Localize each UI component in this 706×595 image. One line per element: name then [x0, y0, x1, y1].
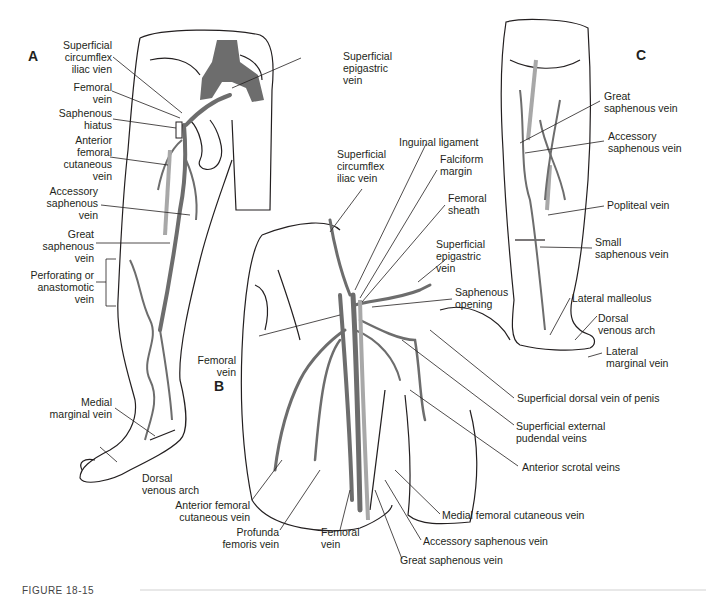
label-b-profunda-femoris-vein: Profunda femoris vein	[222, 526, 279, 550]
label-b-inguinal-ligament: Inguinal ligament	[399, 136, 478, 148]
label-c-popliteal-vein: Popliteal vein	[607, 199, 669, 211]
label-b-superficial-circumflex-iliac-vein: Superficial circumflex iliac vein	[337, 148, 386, 184]
label-a-great-saphenous-vein: Great saphenous vein	[43, 228, 94, 264]
caption-divider	[140, 589, 706, 591]
label-b-accessory-saphenous-vein: Accessory saphenous vein	[423, 535, 548, 547]
label-b-saphenous-opening: Saphenous opening	[455, 286, 508, 310]
label-b-great-saphenous-vein: Great saphenous vein	[400, 554, 503, 566]
label-a-dorsal-venous-arch: Dorsal venous arch	[142, 472, 199, 496]
label-a-medial-marginal-vein: Medial marginal vein	[50, 396, 112, 420]
label-c-dorsal-venous-arch: Dorsal venous arch	[598, 312, 655, 336]
panel-letter-b: B	[214, 378, 224, 394]
label-a-perforating-or-anastomotic-vein: Perforating or anastomotic vein	[30, 269, 94, 305]
label-b-femoral-sheath: Femoral sheath	[448, 192, 487, 216]
label-b-superficial-external-pudendal-veins: Superficial external pudendal veins	[516, 420, 605, 444]
label-a-superficial-circumflex-iliac-vein: Superficial circumflex iliac vien	[63, 39, 112, 75]
panel-letter-c: C	[636, 47, 646, 63]
panel-letter-a: A	[28, 48, 38, 64]
label-b-femoral-vein-lower: Femoral vein	[321, 526, 360, 550]
label-c-lateral-malleolus: Lateral malleolus	[572, 292, 651, 304]
label-b-medial-femoral-cutaneous-vein: Medial femoral cutaneous vein	[442, 509, 584, 521]
label-b-anterior-scrotal-veins: Anterior scrotal veins	[522, 461, 620, 473]
label-b-superficial-epigastric-vein: Superficial epigastric vein	[436, 238, 485, 274]
label-c-lateral-marginal-vein: Lateral marginal vein	[606, 345, 668, 369]
label-b-falciform-margin: Falciform margin	[440, 153, 483, 177]
label-b-femoral-vein-upper: Femoral vein	[197, 354, 236, 378]
label-c-small-saphenous-vein: Small saphenous vein	[595, 236, 669, 260]
label-a-accessory-saphenous-vein: Accessory saphenous vein	[47, 185, 98, 221]
label-c-great-saphenous-vein: Great saphenous vein	[604, 90, 678, 114]
label-c-accessory-saphenous-vein: Accessory saphenous vein	[608, 130, 682, 154]
label-a-anterior-femoral-cutaneous-vein: Anterior femoral cutaneous vein	[64, 134, 112, 182]
figure-caption: FIGURE 18-15	[22, 585, 94, 595]
label-a-femoral-vein: Femoral vein	[73, 81, 112, 105]
label-b-anterior-femoral-cutaneous-vein: Anterior femoral cutaneous vein	[175, 499, 250, 523]
label-a-superficial-epigastric-vein: Superficial epigastric vein	[343, 50, 392, 86]
label-b-superficial-dorsal-vein-of-penis: Superficial dorsal vein of penis	[517, 392, 659, 404]
label-a-saphenous-hiatus: Saphenous hiatus	[59, 107, 112, 131]
